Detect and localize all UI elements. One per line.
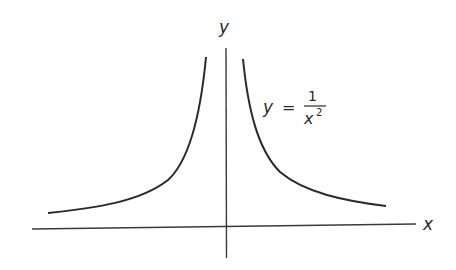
equation-denominator: x [303,109,314,128]
equation-numerator: 1 [308,88,317,104]
x-axis-label: x [422,214,434,234]
equation-exponent: 2 [316,107,322,118]
curve-right-branch [243,59,386,206]
equation-label: y = 1 x 2 [262,88,326,128]
x-axis [32,224,416,229]
graph-canvas: y x y = 1 x 2 [0,0,456,270]
curve-left-branch [48,57,206,213]
y-axis [226,48,227,258]
y-axis-label: y [218,17,230,37]
equation-lhs: y [262,97,274,117]
equation-equals: = [282,98,295,117]
